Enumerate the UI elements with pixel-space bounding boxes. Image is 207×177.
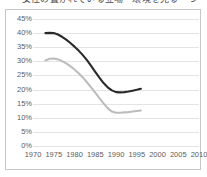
- x-axis-tick: 1990: [108, 150, 125, 160]
- x-axis-tick: 1995: [128, 150, 145, 160]
- x-axis-tick: 2005: [170, 150, 187, 160]
- x-axis-tick: 1975: [45, 150, 62, 160]
- y-axis-tick: 35%: [8, 43, 32, 51]
- x-axis-tick: 1970: [25, 150, 42, 160]
- y-axis-tick: 5%: [8, 128, 32, 136]
- screenshot-root: 女性の置かれている立場・環境を見る一つ 0%5%10%15%20%25%30%3…: [0, 0, 207, 177]
- plot-area: [33, 19, 199, 146]
- y-axis-tick: 20%: [8, 86, 32, 94]
- x-axis-tick: 1980: [66, 150, 83, 160]
- chart-frame: 0%5%10%15%20%25%30%35%40%45% 19701975198…: [5, 9, 201, 170]
- y-axis-tick: 10%: [8, 114, 32, 122]
- x-axis-tick: 2000: [149, 150, 166, 160]
- y-axis-tick: 25%: [8, 71, 32, 79]
- x-axis-tick: 1985: [87, 150, 104, 160]
- y-axis-tick-labels: 0%5%10%15%20%25%30%35%40%45%: [8, 19, 32, 146]
- chart-plot-wrapper: 0%5%10%15%20%25%30%35%40%45% 19701975198…: [6, 10, 200, 169]
- y-axis-tick: 45%: [8, 15, 32, 23]
- series-line-series-dark: [45, 33, 140, 93]
- series-line-series-light: [45, 59, 140, 113]
- series-layer: [33, 19, 199, 146]
- caption-strip: 女性の置かれている立場・環境を見る一つ: [0, 0, 207, 8]
- y-axis-tick: 0%: [8, 142, 32, 150]
- y-axis-tick: 15%: [8, 100, 32, 108]
- x-axis-tick: 2010: [191, 150, 207, 160]
- y-axis-tick: 30%: [8, 57, 32, 65]
- y-axis-tick: 40%: [8, 29, 32, 37]
- gridline: [33, 146, 199, 147]
- caption-text: 女性の置かれている立場・環境を見る一つ: [22, 0, 192, 5]
- x-axis-tick-labels: 197019751980198519901995200020052010: [18, 150, 200, 162]
